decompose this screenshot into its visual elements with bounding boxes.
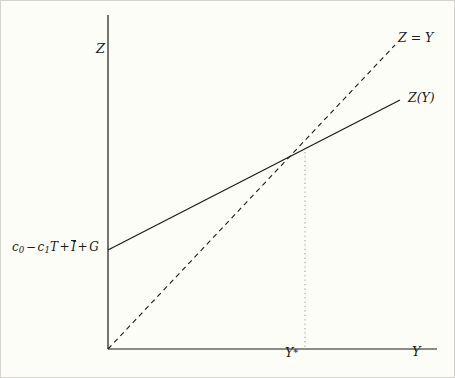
intercept-tax-term: T bbox=[50, 240, 58, 254]
y-axis-label: Z bbox=[96, 42, 105, 55]
plot-canvas bbox=[0, 0, 455, 378]
intercept-government-term: G bbox=[89, 240, 99, 254]
forty-five-degree-line bbox=[108, 45, 395, 349]
forty-five-line-label: Z = Y bbox=[398, 32, 433, 45]
intercept-plus-operator-2: + bbox=[76, 240, 89, 254]
x-axis-label: Y bbox=[412, 345, 421, 358]
equilibrium-tick-label: Y⁎ bbox=[285, 345, 298, 360]
demand-line-label: Z(Y) bbox=[408, 92, 435, 105]
intercept-investment-bar-term: I bbox=[71, 241, 76, 253]
intercept-c0: c bbox=[12, 240, 19, 254]
intercept-plus-operator-1: + bbox=[58, 240, 71, 254]
demand-line-z-of-y bbox=[108, 100, 400, 250]
goods-market-equilibrium-figure: Z Y Z = Y Z(Y) Y⁎ c0−c1T+I+G bbox=[0, 0, 455, 378]
intercept-minus-operator: − bbox=[24, 240, 37, 254]
equilibrium-star-glyph: ⁎ bbox=[293, 344, 298, 355]
autonomous-spending-intercept-label: c0−c1T+I+G bbox=[12, 241, 99, 255]
